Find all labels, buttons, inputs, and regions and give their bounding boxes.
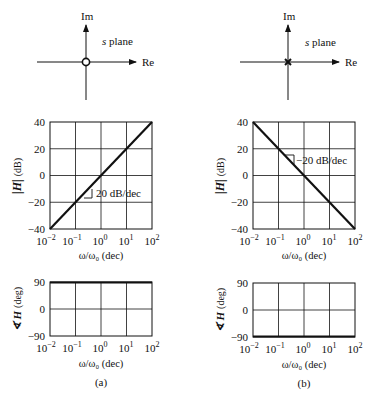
- panel-b: Im Re s plane −20 dB/dec 40 20 0 −20 −40…: [213, 10, 363, 390]
- svg-text:101: 101: [322, 341, 337, 355]
- svg-text:10−2: 10−2: [36, 233, 56, 247]
- slope-annotation-b: −20 dB/dec: [296, 154, 347, 166]
- x-ticks-mag-a: 10−2 10−1 100 101 102: [36, 233, 159, 247]
- y-tick: 90: [237, 277, 249, 289]
- x-axis-label-mag-a: ω/ω₀ (dec): [79, 250, 124, 262]
- svg-text:10−1: 10−1: [265, 233, 285, 247]
- y-tick: −90: [28, 330, 46, 342]
- x-axis-label-mag-b: ω/ω₀ (dec): [282, 250, 327, 262]
- y-tick: −20: [231, 196, 249, 208]
- svg-text:10−1: 10−1: [62, 340, 82, 354]
- svg-text:10−1: 10−1: [265, 341, 285, 355]
- phase-y-label-b: ∢ H(deg): [214, 288, 227, 332]
- im-label: Im: [283, 10, 296, 22]
- y-tick: 40: [34, 116, 46, 128]
- slope-annotation-a: 20 dB/dec: [96, 187, 141, 199]
- caption-b: (b): [298, 377, 311, 390]
- magnitude-y-label-a: |H|(dB): [10, 158, 24, 194]
- s-plane-label: s plane: [305, 36, 336, 48]
- panel-a: Im Re s plane 20 dB/dec 40 20 0 −20 −40 …: [10, 10, 160, 389]
- y-tick: −40: [231, 223, 249, 235]
- x-axis-label-phase-a: ω/ω₀ (dec): [79, 358, 124, 370]
- svg-text:102: 102: [145, 340, 160, 354]
- y-tick: −90: [231, 331, 249, 343]
- y-tick: −40: [28, 223, 46, 235]
- svg-text:100: 100: [93, 233, 108, 247]
- phase-plot-a: 90 0 −90 ∢ H(deg) 10−2 10−1 100 101 102 …: [11, 276, 160, 370]
- y-tick: −20: [28, 196, 46, 208]
- x-axis-label-phase-b: ω/ω₀ (dec): [282, 359, 327, 371]
- svg-text:100: 100: [296, 233, 311, 247]
- zero-marker-icon: [82, 58, 89, 65]
- svg-text:100: 100: [296, 341, 311, 355]
- magnitude-y-label-b: |H|(dB): [213, 158, 227, 194]
- y-tick: 0: [243, 304, 249, 316]
- s-plane-a: Im Re s plane: [37, 10, 154, 100]
- svg-text:100: 100: [93, 340, 108, 354]
- svg-text:102: 102: [348, 233, 363, 247]
- s-plane-label: s plane: [102, 35, 133, 47]
- re-label: Re: [345, 56, 357, 68]
- magnitude-plot-b: −20 dB/dec 40 20 0 −20 −40 |H|(dB) 10−2 …: [213, 116, 363, 262]
- im-label: Im: [81, 10, 94, 22]
- svg-text:10−2: 10−2: [239, 233, 259, 247]
- phase-plot-b: 90 0 −90 ∢ H(deg) 10−2 10−1 100 101 102 …: [214, 277, 363, 371]
- x-ticks-phase-a: 10−2 10−1 100 101 102: [36, 340, 159, 354]
- svg-text:10−1: 10−1: [62, 233, 82, 247]
- s-plane-b: Im Re s plane: [240, 10, 357, 100]
- caption-a: (a): [95, 376, 108, 389]
- re-label: Re: [142, 56, 154, 68]
- phase-y-label-a: ∢ H(deg): [11, 287, 24, 331]
- y-tick: 20: [237, 143, 249, 155]
- svg-text:10−2: 10−2: [36, 340, 56, 354]
- y-tick: 0: [40, 303, 46, 315]
- svg-text:102: 102: [348, 341, 363, 355]
- x-ticks-mag-b: 10−2 10−1 100 101 102: [239, 233, 362, 247]
- magnitude-plot-a: 20 dB/dec 40 20 0 −20 −40 |H|(dB) 10−2 1…: [10, 116, 160, 262]
- y-tick: 40: [237, 116, 249, 128]
- y-tick: 20: [34, 143, 46, 155]
- svg-text:102: 102: [145, 233, 160, 247]
- svg-text:101: 101: [119, 340, 134, 354]
- svg-text:101: 101: [322, 233, 337, 247]
- y-tick: 0: [40, 169, 46, 181]
- svg-text:101: 101: [119, 233, 134, 247]
- y-tick: 90: [34, 276, 46, 288]
- x-ticks-phase-b: 10−2 10−1 100 101 102: [239, 341, 362, 355]
- figure-canvas: Im Re s plane 20 dB/dec 40 20 0 −20 −40 …: [0, 0, 375, 397]
- y-tick: 0: [243, 169, 249, 181]
- svg-text:10−2: 10−2: [239, 341, 259, 355]
